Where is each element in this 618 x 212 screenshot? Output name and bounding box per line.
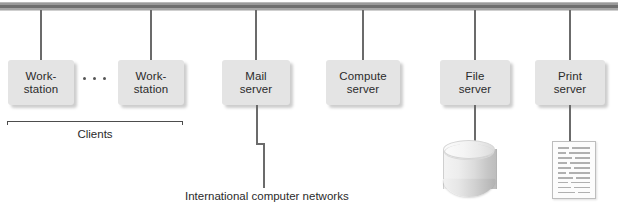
node-workstation-2[interactable]: Work- station (118, 60, 184, 105)
ellipsis-dot (103, 77, 106, 80)
node-label-line2: server (459, 83, 492, 96)
node-label-line2: server (347, 83, 380, 96)
node-label-line2: station (134, 83, 169, 96)
page-text-row (558, 192, 590, 194)
page-text-row (558, 147, 590, 149)
link-file-server-to-disk (474, 105, 476, 145)
node-label-line1: Mail (245, 70, 267, 83)
page-text-row (558, 172, 590, 174)
page-text-row (558, 187, 590, 189)
drop-line-print-server (569, 10, 571, 60)
node-workstation-1[interactable]: Work- station (8, 60, 74, 105)
page-text-row (558, 182, 590, 184)
clients-bracket-tick-right (182, 121, 183, 125)
page-text-row (558, 162, 590, 164)
node-label-line2: server (554, 83, 587, 96)
node-file-server[interactable]: File server (440, 60, 510, 105)
drop-line-mail-server (255, 10, 257, 60)
page-text-row (558, 152, 590, 154)
disk-rim (444, 144, 494, 160)
ellipsis-dot (93, 77, 96, 80)
node-label-line1: Print (558, 70, 582, 83)
external-link-segment-lower (263, 143, 265, 188)
page-text-row (558, 157, 590, 159)
node-label-line1: Work- (26, 70, 57, 83)
clients-bracket (7, 121, 183, 122)
page-text-row (558, 177, 590, 179)
node-label-line1: File (466, 70, 485, 83)
printed-page-icon (552, 141, 596, 199)
disk-bottom (443, 179, 495, 197)
clients-label: Clients (7, 128, 183, 140)
drop-line-file-server (474, 10, 476, 60)
drop-line-compute-server (362, 10, 364, 60)
network-bus-shadow (0, 10, 618, 11)
ellipsis-more-workstations (83, 77, 106, 80)
node-print-server[interactable]: Print server (535, 60, 605, 105)
ellipsis-dot (83, 77, 86, 80)
node-label-line1: Compute (339, 70, 386, 83)
external-link-segment-upper (256, 105, 258, 145)
disk-cylinder-icon (443, 140, 495, 200)
node-compute-server[interactable]: Compute server (326, 60, 400, 105)
link-print-server-to-page (569, 105, 571, 141)
clients-bracket-tick-left (7, 121, 8, 125)
page-text-row (558, 167, 590, 169)
drop-line-workstation-2 (150, 10, 152, 60)
network-diagram: Work- station Work- station Mail server … (0, 0, 618, 212)
drop-line-workstation-1 (40, 10, 42, 60)
node-label-line1: Work- (136, 70, 167, 83)
node-label-line2: server (240, 83, 273, 96)
node-label-line2: station (24, 83, 59, 96)
node-mail-server[interactable]: Mail server (222, 60, 290, 105)
external-network-label: International computer networks (185, 190, 349, 202)
